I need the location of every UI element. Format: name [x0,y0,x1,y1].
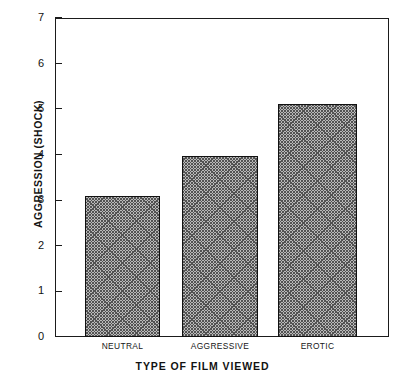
y-tick-label-6: 6 [0,58,44,69]
bar-neutral [85,196,160,337]
y-tick-label-5: 5 [0,103,44,114]
y-tick-label-0: 0 [0,331,44,342]
y-tick-5 [55,108,62,109]
y-tick-label-7: 7 [0,12,44,23]
bar-erotic [278,104,357,337]
y-tick-7 [55,17,62,18]
y-tick-2 [55,245,62,246]
y-tick-6 [55,63,62,64]
y-tick-4 [55,154,62,155]
y-tick-1 [55,291,62,292]
bar-chart: AGGRESSION (SHOCK) 01234567 NEUTRALAGGRE… [0,0,405,381]
category-label-erotic: EROTIC [253,341,382,351]
y-tick-label-2: 2 [0,240,44,251]
y-tick-label-3: 3 [0,194,44,205]
y-tick-label-1: 1 [0,285,44,296]
x-axis-title: TYPE OF FILM VIEWED [0,360,405,372]
y-tick-label-4: 4 [0,149,44,160]
y-tick-3 [55,200,62,201]
y-axis-title: AGGRESSION (SHOCK) [32,64,44,264]
bar-aggressive [182,156,258,337]
